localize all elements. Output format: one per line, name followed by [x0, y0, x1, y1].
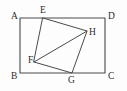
vertex-label-d: D: [108, 11, 115, 21]
geometry-figure: A B C D E F G H: [0, 0, 127, 91]
vertex-label-h: H: [89, 27, 96, 37]
quadrilateral-efgh: [34, 18, 87, 73]
vertex-label-g: G: [68, 75, 75, 85]
vertex-label-b: B: [11, 71, 17, 81]
vertex-label-c: C: [108, 71, 114, 81]
diagonal-fh: [34, 31, 87, 62]
geometry-canvas: A B C D E F G H: [0, 0, 127, 91]
vertex-label-e: E: [40, 5, 46, 15]
vertex-label-f: F: [28, 55, 33, 65]
vertex-label-a: A: [11, 11, 18, 21]
